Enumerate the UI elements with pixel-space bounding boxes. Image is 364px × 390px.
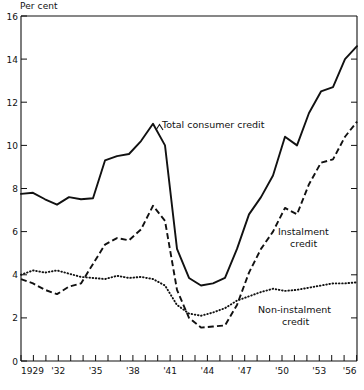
x-tick-label-1935: '35 (89, 366, 103, 376)
y-tick-marks-right (351, 59, 357, 318)
y-tick-label-8: 8 (12, 184, 18, 194)
y-tick-label-14: 14 (7, 55, 19, 65)
y-tick-label-2: 2 (12, 313, 18, 323)
chart-series-group (21, 46, 357, 327)
series-line-instalment-credit (21, 122, 357, 328)
y-tick-marks (21, 16, 27, 361)
y-tick-label-10: 10 (7, 141, 19, 151)
x-tick-labels: 1929 '32 '35 '38 '41 '44 '47 '50 '53 '56 (21, 366, 357, 376)
y-tick-labels: 16 14 12 10 8 6 4 2 0 (7, 12, 19, 367)
chart-figure: Per cent (0, 0, 364, 390)
y-tick-label-4: 4 (12, 270, 18, 280)
x-tick-label-1932: '32 (51, 366, 65, 376)
x-tick-label-1941: '41 (163, 366, 177, 376)
x-tick-label-1938: '38 (126, 366, 140, 376)
x-tick-marks (21, 355, 357, 361)
annotation-non-instalment-credit-line2: credit (282, 316, 309, 327)
y-tick-label-6: 6 (12, 227, 18, 237)
x-tick-label-1950: '50 (275, 366, 289, 376)
annotation-non-instalment-credit-line1: Non-instalment (258, 304, 331, 315)
y-tick-label-12: 12 (7, 98, 18, 108)
series-annotations: Total consumer credit Instalment credit … (156, 119, 331, 327)
annotation-total-consumer-credit: Total consumer credit (161, 119, 265, 130)
y-tick-label-16: 16 (7, 12, 19, 22)
chart-canvas: 16 14 12 10 8 6 4 2 0 (0, 0, 364, 390)
annotation-instalment-credit-line1: Instalment (278, 226, 329, 237)
x-tick-label-1929: 1929 (21, 366, 44, 376)
x-tick-label-1953: '53 (312, 366, 326, 376)
annotation-instalment-credit-line2: credit (290, 238, 317, 249)
series-line-total-consumer-credit (21, 46, 357, 285)
x-tick-label-1947: '47 (238, 366, 252, 376)
y-tick-label-0: 0 (12, 357, 18, 367)
x-tick-label-1944: '44 (200, 366, 214, 376)
x-tick-label-1956: '56 (343, 366, 357, 376)
